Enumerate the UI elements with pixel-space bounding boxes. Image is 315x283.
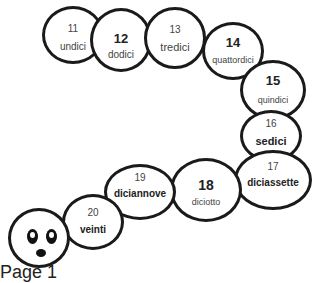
segment-number: 19 [107, 172, 173, 183]
segment-word: diciannove [107, 188, 173, 199]
segment-number: 15 [243, 73, 303, 88]
segment-number: 12 [93, 31, 149, 46]
segment-13: 13 tredici [144, 7, 206, 69]
segment-12: 12 dodici [90, 8, 152, 72]
right-eye-icon [46, 229, 57, 244]
segment-18: 18 diciotto [170, 158, 242, 222]
segment-number: 13 [147, 24, 203, 35]
segment-word: veinti [65, 224, 121, 235]
segment-word: tredici [147, 41, 203, 53]
segment-17: 17 diciassette [234, 150, 312, 210]
segment-word: quindici [243, 95, 303, 105]
segment-word: dodici [93, 49, 149, 60]
mouth-icon [36, 249, 46, 257]
segment-number: 17 [237, 161, 309, 172]
segment-word: diciotto [173, 197, 239, 207]
left-eye-icon [27, 229, 38, 244]
segment-number: 14 [205, 35, 261, 50]
segment-word: quattordici [205, 55, 261, 65]
segment-20: 20 veinti [62, 194, 124, 250]
segment-number: 18 [173, 177, 239, 193]
segment-word: sedici [243, 135, 299, 147]
page-label: Page 1 [0, 262, 57, 283]
caterpillar-head [8, 208, 70, 268]
segment-word: diciassette [237, 177, 309, 188]
segment-number: 20 [65, 207, 121, 218]
segment-number: 16 [243, 118, 299, 129]
